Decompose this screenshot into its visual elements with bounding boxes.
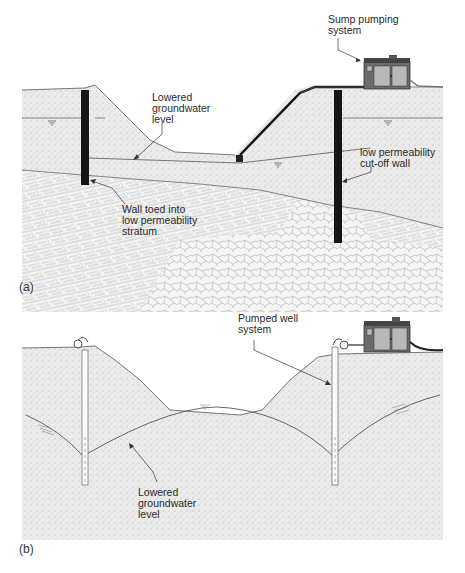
label-lowered-groundwater-b: Lowered groundwater level bbox=[138, 487, 196, 520]
panel-a bbox=[22, 38, 443, 312]
sump bbox=[236, 155, 243, 162]
sump-pump-unit bbox=[364, 55, 443, 89]
label-lowered-groundwater-a: Lowered groundwater level bbox=[152, 92, 210, 125]
label-cut-off-wall: low permeability cut-off wall bbox=[360, 147, 435, 169]
panel-b bbox=[22, 317, 443, 540]
cut-off-wall-right bbox=[334, 90, 342, 243]
diagram-canvas bbox=[0, 0, 465, 573]
cut-off-wall-left bbox=[81, 90, 89, 185]
label-sump-pumping-system: Sump pumping system bbox=[328, 14, 399, 36]
panel-tag-a: (a) bbox=[19, 280, 34, 294]
label-pumped-well-system: Pumped well system bbox=[238, 313, 298, 335]
panel-tag-b: (b) bbox=[19, 542, 34, 556]
label-wall-toed: Wall toed into low permeability stratum bbox=[122, 204, 197, 237]
well-pump-unit bbox=[364, 317, 443, 352]
